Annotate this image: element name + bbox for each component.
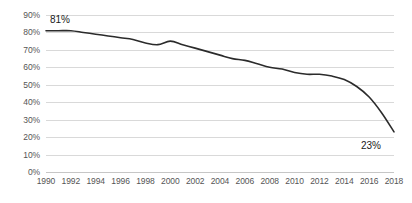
y-axis: 90%80%70%60%50%40%30%20%10%0%: [0, 0, 44, 203]
y-tick-label: 10%: [23, 150, 40, 160]
x-tick-label: 2004: [211, 176, 230, 186]
y-tick-label: 30%: [23, 115, 40, 125]
x-tick-label: 2018: [385, 176, 404, 186]
gridline: [46, 32, 394, 33]
y-tick-label: 60%: [23, 62, 40, 72]
y-tick-label: 70%: [23, 45, 40, 55]
x-tick-label: 1998: [136, 176, 155, 186]
x-axis: 1990199219941996199820002002200420062008…: [0, 176, 412, 192]
gridline: [46, 120, 394, 121]
y-tick-label: 40%: [23, 97, 40, 107]
gridline: [46, 172, 394, 173]
last-point-label: 23%: [361, 140, 381, 151]
x-tick-label: 2000: [161, 176, 180, 186]
y-tick-label: 50%: [23, 80, 40, 90]
gridline: [46, 67, 394, 68]
x-tick-label: 1994: [86, 176, 105, 186]
gridline: [46, 137, 394, 138]
y-tick-label: 20%: [23, 132, 40, 142]
y-tick-label: 90%: [23, 10, 40, 20]
x-tick-label: 2008: [260, 176, 279, 186]
x-tick-label: 2012: [310, 176, 329, 186]
line-chart: 90%80%70%60%50%40%30%20%10%0% 81% 23% 19…: [0, 0, 412, 203]
x-tick-label: 2010: [285, 176, 304, 186]
y-tick-label: 80%: [23, 27, 40, 37]
x-tick-label: 1990: [37, 176, 56, 186]
gridline: [46, 50, 394, 51]
plot-area: [46, 15, 394, 172]
x-tick-label: 2014: [335, 176, 354, 186]
first-point-label: 81%: [50, 14, 70, 25]
gridline: [46, 155, 394, 156]
x-tick-label: 2002: [186, 176, 205, 186]
x-tick-label: 2006: [236, 176, 255, 186]
x-tick-label: 1992: [62, 176, 81, 186]
gridline: [46, 15, 394, 16]
gridline: [46, 102, 394, 103]
x-tick-label: 1996: [111, 176, 130, 186]
x-tick-label: 2016: [360, 176, 379, 186]
gridline: [46, 85, 394, 86]
